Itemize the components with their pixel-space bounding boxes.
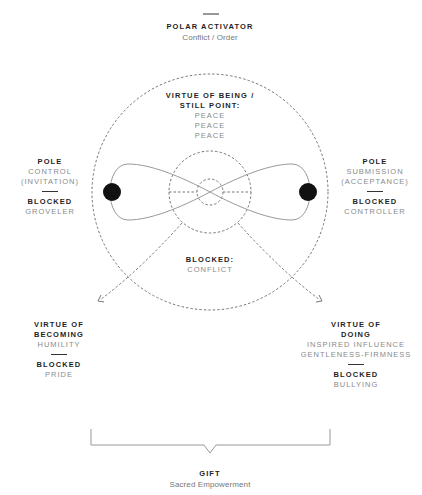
polar-activator-heading: POLAR ACTIVATOR	[110, 22, 310, 32]
arrowhead-left-icon	[98, 295, 104, 302]
polar-activator-block: POLAR ACTIVATOR Conflict / Order	[110, 22, 310, 43]
becoming-heading-1: VIRTUE OF	[14, 320, 104, 330]
gift-text: Sacred Empowerment	[140, 479, 280, 490]
peace-value-2: PEACE	[140, 121, 280, 131]
left-pole-heading: POLE	[10, 157, 90, 167]
left-blocked-heading: BLOCKED	[10, 197, 90, 207]
left-pole-line2: (INVITATION)	[10, 177, 90, 187]
divider	[42, 191, 58, 192]
virtue-of-being-heading-1: VIRTUE OF BEING /	[140, 91, 280, 101]
right-pole-line1: SUBMISSION	[333, 167, 417, 177]
polar-activator-text: Conflict / Order	[110, 32, 310, 43]
right-pole-heading: POLE	[333, 157, 417, 167]
left-blocked-value: GROVELER	[10, 207, 90, 217]
virtue-of-being-heading-2: STILL POINT:	[140, 101, 280, 111]
right-pole-line2: (ACCEPTANCE)	[333, 177, 417, 187]
blocked-conflict-block: BLOCKED: CONFLICT	[160, 255, 260, 275]
peace-value-1: PEACE	[140, 111, 280, 121]
becoming-blocked-value: PRIDE	[14, 370, 104, 380]
becoming-value: HUMILITY	[14, 340, 104, 350]
doing-value-1: INSPIRED INFLUENCE	[295, 340, 417, 350]
infinity-loop	[110, 164, 310, 220]
left-pole-block: POLE CONTROL (INVITATION) BLOCKED GROVEL…	[10, 157, 90, 217]
becoming-blocked-heading: BLOCKED	[14, 360, 104, 370]
right-blocked-value: CONTROLLER	[333, 207, 417, 217]
left-pole-dot	[103, 183, 121, 201]
divider	[51, 354, 67, 355]
doing-value-2: GENTLENESS-FIRMNESS	[295, 350, 417, 360]
doing-heading-2: DOING	[295, 330, 417, 340]
doing-heading-1: VIRTUE OF	[295, 320, 417, 330]
doing-blocked-value: BULLYING	[295, 380, 417, 390]
doing-blocked-heading: BLOCKED	[295, 370, 417, 380]
right-blocked-heading: BLOCKED	[333, 197, 417, 207]
gift-heading: GIFT	[140, 469, 280, 479]
gift-block: GIFT Sacred Empowerment	[140, 469, 280, 490]
virtue-of-becoming-block: VIRTUE OF BECOMING HUMILITY BLOCKED PRID…	[14, 320, 104, 380]
polarity-diagram	[0, 0, 422, 495]
arrowhead-right-icon	[316, 295, 322, 302]
virtue-of-being-block: VIRTUE OF BEING / STILL POINT: PEACE PEA…	[140, 91, 280, 141]
right-pole-block: POLE SUBMISSION (ACCEPTANCE) BLOCKED CON…	[333, 157, 417, 217]
right-pole-dot	[299, 183, 317, 201]
blocked-conflict-value: CONFLICT	[160, 265, 260, 275]
virtue-of-doing-block: VIRTUE OF DOING INSPIRED INFLUENCE GENTL…	[295, 320, 417, 390]
becoming-heading-2: BECOMING	[14, 330, 104, 340]
divider	[367, 191, 383, 192]
left-pole-line1: CONTROL	[10, 167, 90, 177]
divider	[348, 364, 364, 365]
blocked-conflict-heading: BLOCKED:	[160, 255, 260, 265]
peace-value-3: PEACE	[140, 131, 280, 141]
gift-bracket	[91, 429, 330, 453]
